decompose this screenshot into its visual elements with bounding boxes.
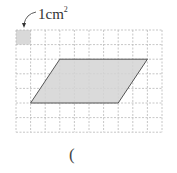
- parallelogram: [31, 59, 148, 103]
- unit-square: [16, 30, 31, 45]
- answer-parenthesis: (: [69, 146, 75, 163]
- unit-label: 1cm2: [38, 7, 68, 22]
- arrow-head-icon: [22, 23, 26, 28]
- grid-diagram: [0, 0, 177, 173]
- leader-line: [24, 12, 36, 24]
